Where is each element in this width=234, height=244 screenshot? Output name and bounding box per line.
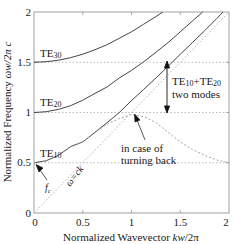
- dispersion-chart: TE30 TE20 TE10 ω=ck fc TE10+TE20 two mod…: [0, 0, 234, 244]
- fc-arrow: [36, 165, 47, 181]
- te20-label: TE20: [40, 96, 61, 109]
- turning-back-label-line2: turning back: [121, 154, 177, 166]
- x-tick-1: 1: [129, 216, 135, 228]
- x-tick-0.5: 0.5: [76, 216, 90, 228]
- x-tick-2: 2: [223, 216, 229, 228]
- x-tick-0: 0: [32, 216, 38, 228]
- y-tick-1: 1: [26, 106, 32, 118]
- y-tick-labels: 2 1.5 1 0.5 0: [17, 6, 31, 219]
- light-line-label: ω=ck: [63, 163, 86, 188]
- x-axis-label: Normalized Wavevector kw/2π: [63, 231, 199, 243]
- te10-label: TE10: [40, 147, 61, 160]
- x-tick-labels: 0 0.5 1 1.5 2: [32, 216, 229, 228]
- y-tick-2: 2: [26, 6, 32, 18]
- y-tick-0: 0: [26, 207, 32, 219]
- te30-label: TE30: [40, 47, 61, 60]
- turning-back-label-line1: in case of: [121, 142, 163, 154]
- y-tick-0.5: 0.5: [17, 156, 31, 168]
- two-modes-label-line1: TE10+TE20: [172, 75, 221, 88]
- y-tick-1.5: 1.5: [17, 56, 31, 68]
- fc-label: fc: [45, 182, 52, 195]
- y-axis-label: Normalized Frequency ωw/2π c: [1, 42, 13, 183]
- x-tick-1.5: 1.5: [173, 216, 187, 228]
- turning-back-arrow: [135, 114, 146, 140]
- two-modes-label-line2: two modes: [172, 88, 220, 100]
